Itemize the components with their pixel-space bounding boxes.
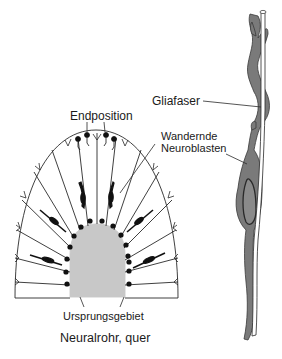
neuroblast-branch	[251, 122, 256, 130]
glial-fiber-with-neuroblast	[236, 10, 269, 340]
endposition-label: Endposition	[70, 110, 133, 122]
glial-fiber-top-cap	[260, 10, 266, 13]
wandernde-label-line1: Wandernde	[161, 130, 226, 142]
ventricular-zone	[70, 224, 125, 297]
wandernde-label-line2: Neuroblasten	[161, 142, 226, 154]
neural-migration-diagram	[0, 0, 282, 359]
gliafaser-label: Gliafaser	[152, 95, 200, 107]
neuralrohr-caption: Neuralrohr, quer	[60, 332, 150, 345]
endposition-neurons	[76, 133, 117, 151]
neural-tube-cross-section	[15, 130, 178, 298]
wandernde-neuroblasten-label: Wandernde Neuroblasten	[161, 130, 226, 154]
ursprungsgebiet-label: Ursprungsgebiet	[63, 311, 144, 322]
